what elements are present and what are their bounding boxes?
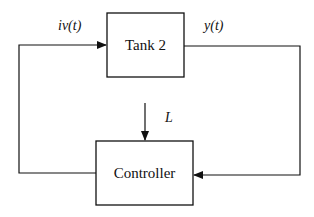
controller-label: Controller [114,165,176,181]
output-signal-line [184,46,300,175]
input-signal-line [19,45,106,173]
input-signal-label: iv(t) [58,18,82,34]
controller-block: Controller [96,141,193,205]
tank2-block: Tank 2 [107,13,184,77]
block-diagram: Tank 2 Controller iv(t) y(t) L [0,0,314,217]
level-label: L [164,110,173,125]
tank2-label: Tank 2 [125,37,166,53]
output-signal-label: y(t) [202,18,224,34]
